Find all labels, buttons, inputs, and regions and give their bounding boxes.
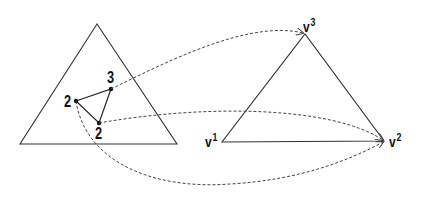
- inner-label-top: 3: [107, 70, 114, 86]
- target-triangle: [222, 34, 384, 142]
- mapping-arrow-3-to-v3: [111, 30, 303, 89]
- v3-superscript: 3: [310, 16, 315, 28]
- mapping-arrow-bottom2-to-v2: [99, 111, 383, 140]
- inner-label-left: 2: [64, 94, 71, 110]
- v3-base: v: [303, 18, 310, 35]
- vertex-label-v2: v2: [389, 132, 401, 149]
- vertex-label-v3: v3: [303, 17, 315, 34]
- v1-superscript: 1: [212, 131, 217, 143]
- v2-superscript: 2: [396, 131, 401, 143]
- mapping-arrow-left2-to-v2: [76, 101, 383, 185]
- inner-triangle: [76, 89, 111, 123]
- inner-label-bottom: 2: [95, 126, 102, 142]
- v1-base: v: [205, 133, 212, 150]
- diagram-canvas: 2 3 2 v1 v2 v3: [0, 0, 425, 198]
- vertex-label-v1: v1: [205, 132, 217, 149]
- v2-base: v: [389, 133, 396, 150]
